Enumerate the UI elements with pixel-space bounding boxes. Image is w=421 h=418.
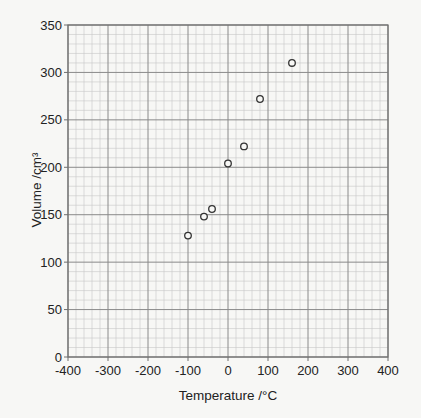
x-tick-label: -400 (55, 363, 81, 378)
y-tick-label: 250 (40, 112, 62, 127)
y-tick-label: 0 (55, 350, 62, 365)
y-tick-label: 50 (48, 302, 62, 317)
data-point-marker (289, 60, 296, 67)
data-point-marker (185, 232, 192, 239)
x-tick-label: 200 (297, 363, 319, 378)
y-axis-label: Volume /cm³ (29, 152, 44, 228)
x-tick-label: 100 (257, 363, 279, 378)
scatter-chart: -400-300-200-1000100200300400 0501001502… (0, 0, 421, 418)
y-axis-tick-labels: 050100150200250300350 (40, 18, 68, 365)
x-tick-label: -300 (95, 363, 121, 378)
y-tick-label: 100 (40, 255, 62, 270)
data-point-marker (201, 213, 208, 220)
x-axis-tick-labels: -400-300-200-1000100200300400 (55, 357, 399, 378)
x-tick-label: 400 (377, 363, 399, 378)
x-tick-label: 0 (224, 363, 231, 378)
data-point-marker (209, 206, 216, 213)
y-tick-label: 300 (40, 65, 62, 80)
data-point-marker (225, 160, 232, 167)
x-tick-label: -200 (135, 363, 161, 378)
x-tick-label: -100 (175, 363, 201, 378)
data-point-marker (241, 143, 248, 150)
y-tick-label: 350 (40, 18, 62, 33)
x-tick-label: 300 (337, 363, 359, 378)
data-point-marker (257, 96, 264, 103)
data-points (185, 60, 296, 239)
x-axis-label: Temperature /°C (179, 388, 278, 403)
